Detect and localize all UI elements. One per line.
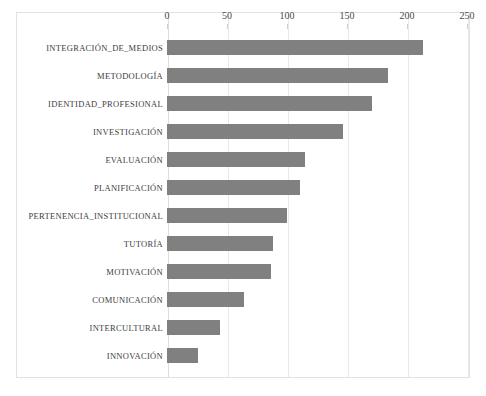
category-label: IDENTIDAD_PROFESIONAL	[48, 90, 163, 118]
bar-row: MOTIVACIÓN	[0, 258, 486, 286]
bar	[167, 348, 198, 363]
bar-row: INTEGRACIÓN_DE_MEDIOS	[0, 34, 486, 62]
category-label: EVALUACIÓN	[105, 146, 163, 174]
bar-row: PLANIFICACIÓN	[0, 174, 486, 202]
bar-row: TUTORÍA	[0, 230, 486, 258]
bar-row: INTERCULTURAL	[0, 314, 486, 342]
bar	[167, 40, 423, 55]
bar	[167, 68, 388, 83]
bar	[167, 180, 300, 195]
bar-row: INNOVACIÓN	[0, 342, 486, 370]
category-label: TUTORÍA	[124, 230, 163, 258]
category-label: INTEGRACIÓN_DE_MEDIOS	[46, 34, 163, 62]
bar	[167, 320, 220, 335]
bar	[167, 208, 287, 223]
bar-row: METODOLOGÍA	[0, 62, 486, 90]
bar-row: EVALUACIÓN	[0, 146, 486, 174]
bar	[167, 124, 343, 139]
category-label: PERTENENCIA_INSTITUCIONAL	[29, 202, 163, 230]
bar	[167, 152, 305, 167]
bar-row: INVESTIGACIÓN	[0, 118, 486, 146]
bar-row: IDENTIDAD_PROFESIONAL	[0, 90, 486, 118]
category-label: COMUNICACIÓN	[92, 286, 163, 314]
bars-layer: INTEGRACIÓN_DE_MEDIOSMETODOLOGÍAIDENTIDA…	[0, 0, 486, 396]
bar-chart: 050100150200250 INTEGRACIÓN_DE_MEDIOSMET…	[0, 0, 486, 396]
category-label: INTERCULTURAL	[90, 314, 163, 342]
category-label: MOTIVACIÓN	[106, 258, 163, 286]
bar-row: PERTENENCIA_INSTITUCIONAL	[0, 202, 486, 230]
category-label: INVESTIGACIÓN	[93, 118, 163, 146]
category-label: INNOVACIÓN	[107, 342, 163, 370]
bar	[167, 96, 372, 111]
bar	[167, 236, 273, 251]
bar	[167, 292, 244, 307]
bar	[167, 264, 271, 279]
category-label: PLANIFICACIÓN	[94, 174, 163, 202]
category-label: METODOLOGÍA	[97, 62, 163, 90]
bar-row: COMUNICACIÓN	[0, 286, 486, 314]
